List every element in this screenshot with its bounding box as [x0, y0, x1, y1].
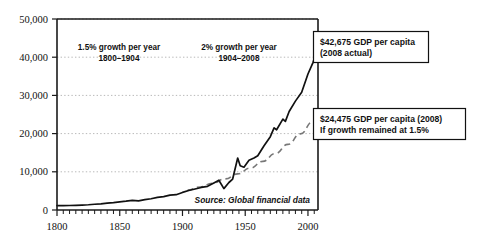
- y-axis-tick-label: 40,000: [19, 52, 48, 63]
- growth-label-1-line1: 1.5% growth per year: [78, 43, 161, 52]
- y-axis-tick-label: 20,000: [19, 128, 48, 139]
- x-axis-tick-label: 2000: [297, 221, 318, 232]
- callout-counterfactual-line2: If growth remained at 1.5%: [320, 125, 429, 135]
- callout-actual-line1: $42,675 GDP per capita: [320, 37, 415, 47]
- x-axis-tick-label: 1850: [109, 221, 130, 232]
- y-axis-tick-label: 0: [43, 205, 48, 216]
- x-axis-tick-label: 1900: [172, 221, 193, 232]
- growth-label-2-line2: 1904–2008: [219, 54, 260, 63]
- callout-actual-line2: (2008 actual): [320, 48, 372, 58]
- growth-label-2-line1: 2% growth per year: [201, 43, 277, 52]
- source-note: Source: Global financial data: [195, 195, 311, 205]
- x-axis-tick-label: 1800: [47, 221, 68, 232]
- x-axis-tick-label: 1950: [235, 221, 256, 232]
- chart-canvas: 010,00020,00030,00040,00050,000 18001850…: [0, 0, 480, 248]
- y-axis-tick-label: 30,000: [19, 90, 48, 101]
- gdp-per-capita-chart: 010,00020,00030,00040,00050,000 18001850…: [0, 0, 480, 248]
- y-axis-tick-label: 10,000: [19, 166, 48, 177]
- y-axis-tick-label: 50,000: [19, 14, 48, 25]
- growth-label-1-line2: 1800–1904: [99, 54, 140, 63]
- callout-counterfactual-line1: $24,475 GDP per capita (2008): [320, 114, 442, 124]
- callout-counterfactual: $24,475 GDP per capita (2008) If growth …: [314, 109, 466, 140]
- callout-actual: $42,675 GDP per capita (2008 actual): [314, 32, 429, 63]
